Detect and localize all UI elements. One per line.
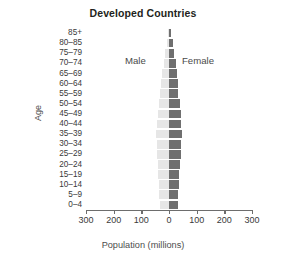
bar-female (169, 110, 181, 119)
age-tick-label: 55–59 (24, 89, 82, 99)
bar-male (157, 140, 169, 149)
x-axis-tick (169, 210, 170, 214)
age-tick-label: 40–44 (24, 119, 82, 129)
x-axis-tick (141, 210, 142, 214)
bar-male (159, 180, 169, 189)
bar-male (156, 130, 169, 139)
x-axis-tick-label: 300 (232, 215, 272, 225)
age-tick-label: 85+ (24, 28, 82, 38)
pyramid-row (86, 190, 252, 200)
age-tick-label: 5–9 (24, 190, 82, 200)
pyramid-row (86, 200, 252, 210)
pyramid-row (86, 89, 252, 99)
bar-female (169, 49, 174, 58)
pyramid-row (86, 139, 252, 149)
pyramid-row (86, 159, 252, 169)
bar-female (169, 190, 178, 199)
x-axis-tick (197, 210, 198, 214)
population-pyramid-chart: Developed Countries Age 85+80–8575–7970–… (0, 0, 286, 267)
bar-male (161, 79, 169, 88)
age-tick-label: 50–54 (24, 99, 82, 109)
bar-female (169, 170, 179, 179)
bar-male (157, 150, 169, 159)
age-tick-label: 60–64 (24, 79, 82, 89)
age-tick-label: 45–49 (24, 109, 82, 119)
y-axis-tick-labels: 85+80–8575–7970–7465–6960–6455–5950–5445… (20, 28, 82, 210)
pyramid-row (86, 109, 252, 119)
pyramid-row (86, 48, 252, 58)
age-tick-label: 15–19 (24, 170, 82, 180)
bar-female (169, 140, 181, 149)
bar-female (169, 130, 182, 139)
age-tick-label: 0–4 (24, 200, 82, 210)
bar-male (158, 170, 169, 179)
bar-female (169, 79, 178, 88)
bar-female (169, 29, 171, 38)
bar-female (169, 201, 178, 210)
pyramid-row (86, 68, 252, 78)
pyramid-row (86, 99, 252, 109)
x-axis-title: Population (millions) (0, 240, 286, 250)
age-tick-label: 20–24 (24, 160, 82, 170)
bar-male (159, 190, 169, 199)
bar-male (157, 120, 169, 129)
bar-female (169, 160, 180, 169)
pyramid-row (86, 149, 252, 159)
x-axis-tick (86, 210, 87, 214)
series-label-male: Male (125, 55, 146, 66)
bar-male (158, 160, 169, 169)
bar-female (169, 150, 181, 159)
bar-male (162, 69, 169, 78)
bar-female (169, 180, 179, 189)
x-axis-tick (252, 210, 253, 214)
age-tick-label: 25–29 (24, 149, 82, 159)
age-tick-label: 35–39 (24, 129, 82, 139)
bar-female (169, 120, 181, 129)
pyramid-row (86, 28, 252, 38)
x-axis-tick (224, 210, 225, 214)
series-label-female: Female (182, 55, 214, 66)
bar-female (169, 69, 177, 78)
bar-female (169, 39, 173, 48)
bar-male (160, 201, 169, 210)
pyramid-row (86, 119, 252, 129)
pyramid-row (86, 180, 252, 190)
bar-male (159, 99, 169, 108)
chart-title: Developed Countries (0, 7, 286, 19)
pyramid-row (86, 79, 252, 89)
age-tick-label: 10–14 (24, 180, 82, 190)
pyramid-row (86, 129, 252, 139)
age-tick-label: 75–79 (24, 48, 82, 58)
bar-female (169, 99, 180, 108)
plot-area (86, 28, 252, 210)
age-tick-label: 70–74 (24, 58, 82, 68)
age-tick-label: 65–69 (24, 69, 82, 79)
pyramid-row (86, 170, 252, 180)
pyramid-row (86, 38, 252, 48)
bar-female (169, 89, 178, 98)
age-tick-label: 30–34 (24, 139, 82, 149)
pyramid-row (86, 58, 252, 68)
bar-male (160, 89, 169, 98)
x-axis-tick (114, 210, 115, 214)
bar-male (158, 110, 169, 119)
bar-female (169, 59, 176, 68)
age-tick-label: 80–85 (24, 38, 82, 48)
